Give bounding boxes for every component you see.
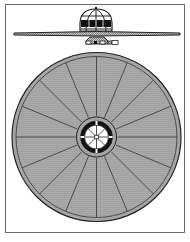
hub-center-icon <box>95 135 99 139</box>
side-disc <box>14 32 180 37</box>
underside-pod <box>86 37 118 45</box>
dome-icon <box>80 7 112 31</box>
top-view <box>12 53 181 222</box>
saucer-diagram <box>0 0 190 242</box>
central-hub <box>77 117 117 157</box>
side-view <box>14 7 180 45</box>
